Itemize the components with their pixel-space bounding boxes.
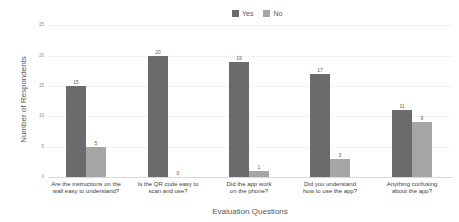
category-line: Is the QR code easy to [123,181,213,188]
category-label-q1: Are the instructions on the wall easy to… [41,181,131,195]
value-label: 5 [86,140,106,146]
y-tick: 15 [32,83,44,88]
value-label: 0 [168,170,188,176]
bar-yes-q3 [229,62,249,177]
no-swatch-icon [263,10,270,17]
category-line: on the phone? [204,188,294,195]
value-label: 19 [229,55,249,61]
bar-no-q5 [412,122,432,177]
bar-yes-q1 [66,86,86,177]
category-line: Anything confusing [367,181,457,188]
category-line: Are the instructions on the [41,181,131,188]
value-label: 15 [66,79,86,85]
bar-yes-q4 [310,74,330,177]
bar-no-q1 [86,147,106,177]
y-axis-label: Number of Respondents [19,55,28,145]
category-line: about the app? [367,188,457,195]
y-tick: 0 [32,174,44,179]
legend-item-yes: Yes [232,10,253,17]
y-tick: 10 [32,113,44,118]
gridline [48,86,453,88]
category-line: wall easy to understand? [41,188,131,195]
legend: Yes No [232,10,282,17]
category-label-q5: Anything confusing about the app? [367,181,457,195]
yes-swatch-icon [232,10,239,17]
legend-label-yes: Yes [242,10,253,17]
category-label-q4: Did you understand how to use the app? [285,181,375,195]
x-axis-label: Evaluation Questions [200,207,300,216]
bar-yes-q2 [148,56,168,177]
category-label-q2: Is the QR code easy to scan and use? [123,181,213,195]
value-label: 9 [412,115,432,121]
legend-item-no: No [263,10,282,17]
value-label: 17 [310,67,330,73]
x-axis-line [48,177,453,178]
gridline [48,56,453,58]
y-tick: 20 [32,53,44,58]
legend-label-no: No [273,10,282,17]
value-label: 3 [330,152,350,158]
y-tick: 5 [32,144,44,149]
category-label-q3: Did the app work on the phone? [204,181,294,195]
category-line: Did the app work [204,181,294,188]
bar-yes-q5 [392,110,412,177]
y-tick: 25 [32,22,44,27]
value-label: 1 [249,164,269,170]
category-line: scan and use? [123,188,213,195]
gridline [48,25,453,27]
bar-no-q3 [249,171,269,177]
value-label: 20 [148,49,168,55]
category-line: Did you understand [285,181,375,188]
bar-no-q4 [330,159,350,177]
category-line: how to use the app? [285,188,375,195]
value-label: 11 [392,103,412,109]
